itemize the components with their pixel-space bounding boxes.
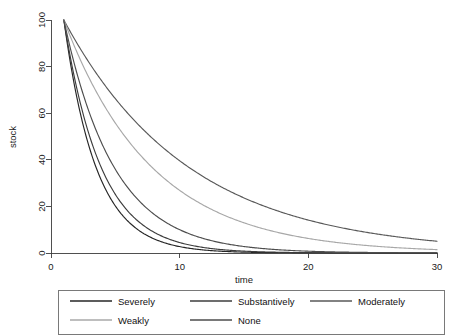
y-axis-title: stock bbox=[7, 126, 18, 148]
legend-label-moderately: Moderately bbox=[358, 296, 405, 307]
curve-weakly bbox=[64, 20, 437, 250]
x-axis: 0102030 time bbox=[48, 253, 442, 285]
x-axis-title: time bbox=[235, 274, 253, 285]
y-tick-label: 20 bbox=[36, 201, 47, 212]
legend-label-none: None bbox=[238, 315, 261, 326]
y-tick-label: 80 bbox=[36, 61, 47, 72]
x-tick-label: 0 bbox=[48, 261, 53, 272]
y-tick-label: 40 bbox=[36, 155, 47, 166]
legend-label-weakly: Weakly bbox=[118, 315, 149, 326]
y-tick-label: 60 bbox=[36, 108, 47, 119]
y-tick-label: 0 bbox=[36, 250, 47, 255]
x-tick-label: 20 bbox=[303, 261, 314, 272]
y-tick-group: 020406080100 bbox=[36, 12, 51, 256]
legend-label-substantively: Substantively bbox=[238, 296, 295, 307]
x-tick-group: 0102030 bbox=[48, 253, 442, 272]
x-tick-label: 10 bbox=[174, 261, 185, 272]
curve-none bbox=[64, 20, 437, 253]
legend-label-severely: Severely bbox=[118, 296, 155, 307]
chart-page: 020406080100 stock 0102030 time Severely… bbox=[0, 0, 450, 336]
x-tick-label: 30 bbox=[432, 261, 443, 272]
plot-area bbox=[64, 20, 437, 253]
curve-substantively bbox=[64, 20, 437, 253]
stock-decay-chart: 020406080100 stock 0102030 time Severely… bbox=[0, 0, 450, 336]
curve-moderately bbox=[64, 20, 437, 241]
y-axis: 020406080100 stock bbox=[7, 12, 51, 256]
legend: SeverelySubstantivelyModeratelyWeaklyNon… bbox=[58, 290, 444, 334]
y-tick-label: 100 bbox=[36, 12, 47, 28]
curve-group bbox=[64, 20, 437, 253]
curve-severely bbox=[64, 20, 437, 253]
